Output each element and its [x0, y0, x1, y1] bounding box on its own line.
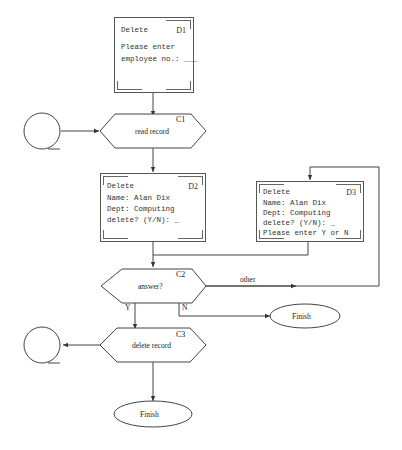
screen-line: Name: Alan Dix	[107, 194, 170, 202]
screen-id: D2	[188, 182, 198, 191]
screen-line: delete? (Y/N): _	[107, 216, 179, 224]
screen-line: Dept: Computing	[107, 205, 175, 213]
screen-title: Delete	[107, 182, 134, 190]
exit-connector-circle	[24, 327, 60, 363]
screen-d2: Delete D2 Name: Alan Dix Dept: Computing…	[100, 173, 206, 242]
computation-c2-label: answer?	[138, 282, 163, 291]
screen-id: D1	[176, 26, 186, 35]
screen-d3: Delete D3 Name: Alan Dix Dept: Computing…	[256, 181, 364, 242]
frame-corner	[103, 230, 128, 239]
screen-title: Delete	[121, 26, 148, 34]
screen-title: Delete	[263, 188, 290, 196]
screen-line: Name: Alan Dix	[263, 199, 326, 207]
edge-d3-join	[153, 242, 308, 255]
screen-d1: Delete D1 Please enter employee no.: ___	[114, 17, 194, 93]
screen-line: Dept: Computing	[263, 209, 331, 217]
screen-line: Please enter	[121, 43, 175, 51]
edge-label-no: N	[182, 303, 187, 312]
computation-c1-label: read record	[135, 127, 169, 136]
edge-label-other: other	[240, 275, 255, 284]
computation-c2-id: C2	[176, 270, 185, 279]
screen-line: Please enter Y or N	[263, 229, 349, 237]
frame-corner	[117, 81, 142, 90]
screen-line: delete? (Y/N): _	[263, 219, 335, 227]
edge-label-yes: Y	[125, 303, 130, 312]
entry-connector-circle	[24, 113, 60, 149]
finish-label-bottom: Finish	[140, 410, 159, 419]
frame-corner	[178, 230, 203, 239]
dialogue-flowchart: Delete D1 Please enter employee no.: ___…	[0, 0, 402, 450]
computation-c1-id: C1	[176, 115, 185, 124]
edge-c2-no-finish	[179, 303, 270, 316]
screen-id: D3	[346, 188, 356, 197]
computation-c3-id: C3	[176, 330, 185, 339]
screen-line: employee no.: ___	[121, 55, 198, 63]
frame-corner	[166, 81, 191, 90]
computation-c3-label: delete record	[132, 341, 171, 350]
finish-label-right: Finish	[292, 312, 311, 321]
